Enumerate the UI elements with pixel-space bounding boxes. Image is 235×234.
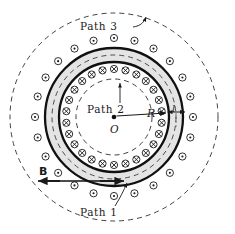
current-out-of-page-symbol <box>71 45 78 52</box>
current-out-of-page-symbol <box>187 93 194 100</box>
current-out-of-page-symbol <box>189 113 196 120</box>
current-out-of-page-symbol <box>187 134 194 141</box>
path3-leader-line <box>133 17 146 27</box>
current-out-of-page-symbol <box>34 93 41 100</box>
path3-label: Path 3 <box>80 21 117 32</box>
current-into-page-symbol <box>88 71 95 78</box>
center-point-marker <box>112 115 117 120</box>
current-into-page-symbol <box>142 149 149 156</box>
radius-label: R <box>147 108 155 119</box>
current-out-of-page-symbol <box>90 190 97 197</box>
current-into-page-symbol <box>63 119 70 126</box>
path2-label: Path 2 <box>87 104 124 115</box>
current-out-of-page-symbol <box>55 169 62 176</box>
current-into-page-symbol <box>79 77 86 84</box>
current-into-page-symbol <box>133 156 140 163</box>
current-out-of-page-symbol <box>31 113 38 120</box>
current-into-page-symbol <box>110 161 117 168</box>
current-out-of-page-symbol <box>42 74 49 81</box>
current-into-page-symbol <box>133 71 140 78</box>
current-into-page-symbol <box>63 108 70 115</box>
current-out-of-page-symbol <box>131 37 138 44</box>
current-into-page-symbol <box>155 130 162 137</box>
current-out-of-page-symbol <box>150 182 157 189</box>
figure-canvas <box>0 0 235 234</box>
current-out-of-page-symbol <box>42 153 49 160</box>
current-out-of-page-symbol <box>150 45 157 52</box>
center-label-o: O <box>110 124 119 135</box>
path1-label: Path 1 <box>80 207 117 218</box>
current-into-page-symbol <box>150 141 157 148</box>
current-out-of-page-symbol <box>110 34 117 41</box>
current-into-page-symbol <box>122 67 129 74</box>
current-into-page-symbol <box>142 77 149 84</box>
current-into-page-symbol <box>110 65 117 72</box>
current-out-of-page-symbol <box>55 58 62 65</box>
current-out-of-page-symbol <box>110 192 117 199</box>
current-out-of-page-symbol <box>179 153 186 160</box>
current-out-of-page-symbol <box>166 169 173 176</box>
current-into-page-symbol <box>99 67 106 74</box>
current-into-page-symbol <box>66 96 73 103</box>
current-out-of-page-symbol <box>34 134 41 141</box>
current-out-of-page-symbol <box>166 58 173 65</box>
thickness-label: l <box>172 104 175 114</box>
field-label-b: B <box>39 166 47 177</box>
current-into-page-symbol <box>122 160 129 167</box>
current-into-page-symbol <box>71 86 78 93</box>
current-into-page-symbol <box>99 160 106 167</box>
current-into-page-symbol <box>155 96 162 103</box>
current-out-of-page-symbol <box>90 37 97 44</box>
current-into-page-symbol <box>66 130 73 137</box>
current-into-page-symbol <box>150 86 157 93</box>
current-into-page-symbol <box>158 119 165 126</box>
toroid-amperian-paths-figure: Path 3 Path 2 Path 1 O R l B <box>0 0 235 234</box>
current-out-of-page-symbol <box>131 190 138 197</box>
current-into-page-symbol <box>71 141 78 148</box>
current-into-page-symbol <box>79 149 86 156</box>
current-out-of-page-symbol <box>71 182 78 189</box>
current-out-of-page-symbol <box>179 74 186 81</box>
current-into-page-symbol <box>88 156 95 163</box>
